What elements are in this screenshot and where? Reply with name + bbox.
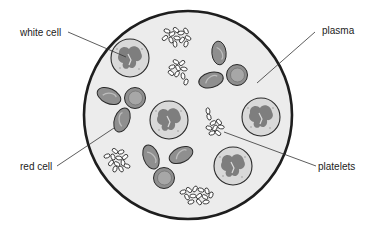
white-cell-2 <box>150 101 188 139</box>
white-cell-4 <box>214 147 252 185</box>
white-cell-3 <box>242 98 280 136</box>
red-cell-5 <box>125 88 146 109</box>
white-cell-1 <box>111 39 149 77</box>
platelets-label: platelets <box>318 162 355 172</box>
red-cell-3 <box>227 65 248 86</box>
white-cell-label: white cell <box>20 28 61 38</box>
red-cell-9 <box>154 168 175 189</box>
red-cell-label: red cell <box>20 162 52 172</box>
plasma-label: plasma <box>322 26 354 36</box>
